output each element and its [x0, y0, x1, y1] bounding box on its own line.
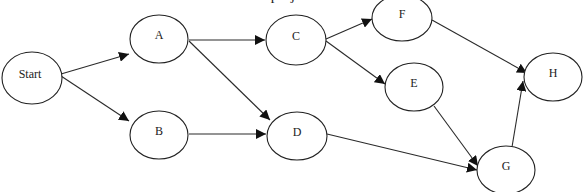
node-label: Start — [19, 67, 42, 81]
node-b: B — [130, 111, 188, 159]
edge-c-to-f — [326, 19, 372, 39]
edge-f-to-h — [432, 20, 527, 73]
node-c: C — [266, 15, 326, 65]
nodes: StartABCDFEGH — [2, 0, 582, 192]
node-e: E — [385, 63, 443, 111]
node-a: A — [130, 15, 188, 63]
edge-start-to-a — [61, 54, 129, 74]
node-label: A — [155, 28, 164, 42]
node-label: D — [293, 125, 302, 139]
network-diagram: StartABCDFEGH — [0, 0, 583, 192]
node-h: H — [524, 53, 582, 101]
edge-start-to-b — [61, 76, 129, 121]
node-label: G — [502, 159, 511, 173]
edge-c-to-e — [326, 41, 385, 84]
node-label: B — [155, 124, 163, 138]
node-start: Start — [2, 52, 62, 104]
node-d: D — [267, 112, 327, 160]
node-label: C — [292, 29, 300, 43]
node-g: G — [477, 146, 535, 192]
node-label: E — [410, 76, 417, 90]
node-label: H — [549, 66, 558, 80]
edge-e-to-g — [434, 106, 478, 166]
node-f: F — [372, 0, 432, 41]
edge-g-to-h — [512, 81, 523, 147]
node-label: F — [399, 7, 406, 21]
edge-a-to-d — [189, 41, 270, 120]
edge-d-to-g — [327, 134, 477, 170]
